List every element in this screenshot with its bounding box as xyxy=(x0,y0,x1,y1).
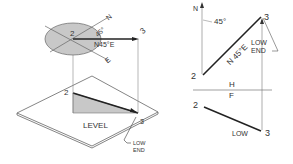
low-end-line2: END xyxy=(251,47,266,54)
low-label: LOW xyxy=(133,140,146,146)
front-view-line xyxy=(204,107,261,131)
bearing-label: N45°E xyxy=(94,41,115,48)
point-2-label: 2 xyxy=(70,29,75,38)
north-label-right: N xyxy=(193,5,198,12)
pictorial-view: 2 3 N E 45° N45°E 2 3 LEVEL LOW END xyxy=(17,13,158,153)
front-low-label: LOW xyxy=(232,130,248,137)
north-label: N xyxy=(105,13,113,22)
plate-point-3-label: 3 xyxy=(140,118,144,125)
front-point-3: 3 xyxy=(265,128,270,138)
level-label: LEVEL xyxy=(83,121,108,130)
angle-leader xyxy=(203,20,212,22)
top-point-3: 3 xyxy=(264,12,269,22)
bearing-label-right: N 45°E xyxy=(225,43,249,67)
low-end-line1: LOW xyxy=(251,39,267,46)
fold-h-label: H xyxy=(229,80,235,89)
end-label: END xyxy=(133,147,145,153)
east-label: E xyxy=(104,56,112,65)
front-point-2: 2 xyxy=(193,100,198,110)
plate-point-2-label: 2 xyxy=(64,88,69,97)
angle-label-right: 45° xyxy=(214,17,226,26)
fold-f-label: F xyxy=(229,91,234,100)
point-3-label: 3 xyxy=(138,26,148,36)
north-arrowhead xyxy=(200,2,204,8)
top-point-2: 2 xyxy=(191,71,196,81)
angle-label: 45° xyxy=(94,26,107,38)
bearing-diagram: 2 3 N E 45° N45°E 2 3 LEVEL LOW END N 45… xyxy=(0,0,293,164)
orthographic-views: N 45° N 45°E 2 3 LOW END H F 2 3 LOW xyxy=(191,2,278,138)
